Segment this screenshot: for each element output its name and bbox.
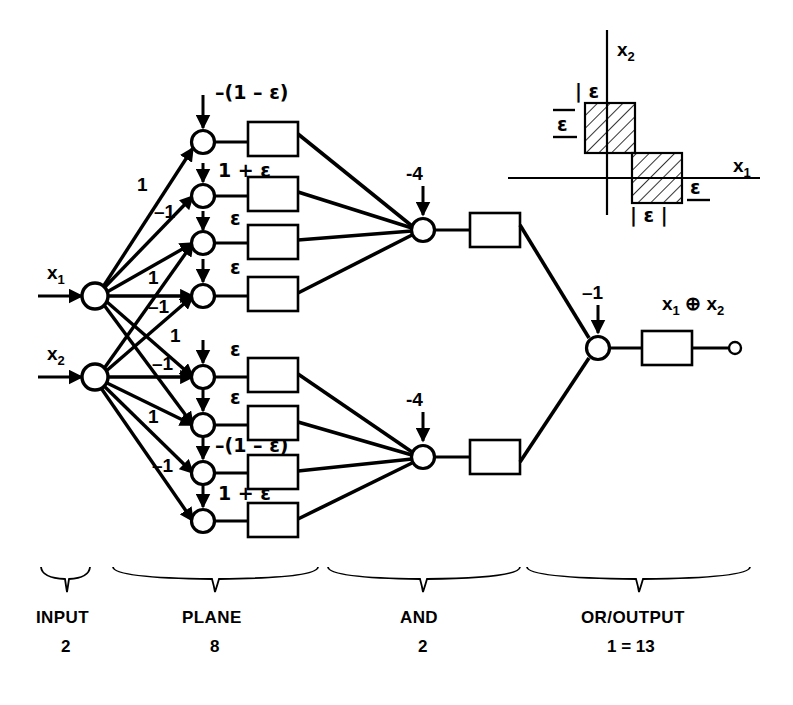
or-node[interactable] [587, 337, 610, 360]
plane-box-7[interactable] [248, 455, 298, 489]
plane-box-5[interactable] [248, 358, 298, 392]
inset-label-eps-right: ε [690, 176, 701, 198]
weight-label-4: –1 [148, 296, 170, 317]
plane-node-3[interactable] [192, 232, 215, 255]
weight-label-8: –1 [152, 455, 174, 476]
and-bias-label-1: -4 [406, 163, 423, 184]
weight-label-1: 1 [137, 174, 148, 195]
weight-label-6: –1 [152, 353, 174, 374]
group-count-input: 2 [61, 637, 70, 656]
plane-bias-label-1: –(1 – ε) [215, 81, 288, 103]
inset-region-upper-left [585, 103, 635, 153]
plane-node-5[interactable] [192, 366, 215, 389]
plane-bias-label-3: ε [230, 207, 241, 229]
group-count-and: 2 [418, 637, 427, 656]
and-box-2[interactable] [470, 440, 520, 474]
plane-bias-label-5: ε [230, 338, 241, 360]
group-label-or-output: OR/OUTPUT [581, 608, 685, 627]
input-node-x2[interactable] [82, 364, 108, 390]
and-node-1[interactable] [412, 219, 435, 242]
group-label-input: INPUT [36, 608, 89, 627]
group-count-plane: 8 [210, 637, 219, 656]
group-label-and: AND [400, 608, 438, 627]
plane-box-3[interactable] [248, 225, 298, 259]
plane-box-1[interactable] [248, 122, 298, 156]
inset-label-eps-bottom: | ε | [630, 204, 668, 227]
weight-label-2: –1 [154, 201, 176, 222]
input-node-x1[interactable] [82, 283, 108, 309]
and-node-2[interactable] [412, 446, 435, 469]
group-count-or-output: 1 = 13 [607, 637, 655, 656]
group-label-plane: PLANE [182, 608, 242, 627]
inset-label-eps-top: | ε [575, 80, 599, 103]
plane-node-8[interactable] [192, 510, 215, 533]
inset-region-lower-right [632, 153, 682, 203]
inset-label-eps-left: ε [557, 113, 568, 135]
weight-label-3: 1 [148, 267, 159, 288]
plane-node-4[interactable] [192, 285, 215, 308]
plane-bias-label-4: ε [230, 256, 241, 278]
plane-box-2[interactable] [248, 177, 298, 211]
weight-label-7: 1 [148, 406, 159, 427]
plane-box-4[interactable] [248, 277, 298, 311]
plane-node-6[interactable] [192, 414, 215, 437]
plane-node-7[interactable] [192, 462, 215, 485]
weight-label-5: 1 [170, 325, 181, 346]
plane-box-6[interactable] [248, 406, 298, 440]
plane-bias-label-6: ε [230, 386, 241, 408]
plane-node-2[interactable] [192, 185, 215, 208]
and-bias-label-2: -4 [406, 389, 423, 410]
or-bias-label: –1 [582, 282, 604, 303]
plane-box-8[interactable] [248, 503, 298, 537]
and-box-1[interactable] [470, 213, 520, 247]
output-terminal[interactable] [729, 342, 741, 354]
or-box[interactable] [642, 331, 692, 365]
network-diagram: x1 x2 1 –1 1 –1 1 –1 1 –1 [0, 0, 793, 705]
plane-node-1[interactable] [192, 131, 215, 154]
